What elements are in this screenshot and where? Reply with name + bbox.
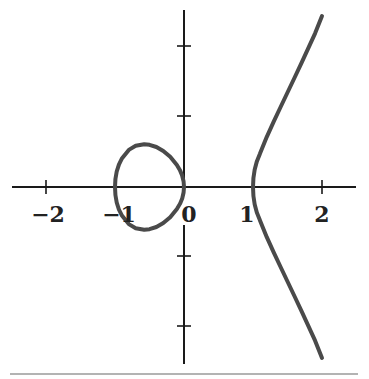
x-tick-label-2: 2	[314, 203, 329, 225]
x-tick-label-neg1: −1	[102, 203, 136, 225]
x-tick-label-1: 1	[239, 203, 254, 225]
x-tick-label-0: 0	[181, 203, 196, 225]
elliptic-curve-plot	[0, 0, 369, 379]
x-tick-label-neg2: −2	[31, 203, 65, 225]
